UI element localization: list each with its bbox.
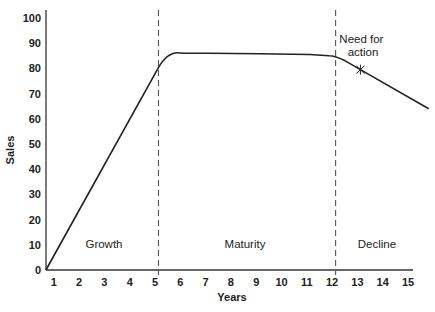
x-tick-label: 13 xyxy=(351,276,363,288)
x-tick-label: 4 xyxy=(127,276,134,288)
annotation-line-1: Need for xyxy=(339,33,383,45)
product-life-cycle-chart: 0102030405060708090100 12345678910111213… xyxy=(0,0,435,312)
x-tick-label: 2 xyxy=(76,276,82,288)
x-tick-label: 3 xyxy=(101,276,107,288)
x-tick-label: 9 xyxy=(253,276,259,288)
annotation-label: Need for action xyxy=(339,33,386,58)
phase-label-maturity: Maturity xyxy=(225,238,266,250)
phase-dividers xyxy=(159,10,336,275)
y-tick-label: 30 xyxy=(29,188,41,200)
x-tick-label: 6 xyxy=(177,276,183,288)
x-tick-label: 12 xyxy=(326,276,338,288)
x-tick-label: 8 xyxy=(228,276,234,288)
y-tick-label: 100 xyxy=(23,12,41,24)
y-tick-label: 40 xyxy=(29,163,41,175)
annotation-line-2: action xyxy=(348,46,379,58)
y-tick-label: 60 xyxy=(29,113,41,125)
chart-canvas: 0102030405060708090100 12345678910111213… xyxy=(0,0,435,312)
x-tick-label: 1 xyxy=(51,276,57,288)
x-tick-label: 15 xyxy=(402,276,414,288)
y-axis-title: Sales xyxy=(4,136,16,165)
y-tick-label: 50 xyxy=(29,138,41,150)
phase-label-growth: Growth xyxy=(85,238,122,250)
phase-label-decline: Decline xyxy=(358,238,396,250)
y-tick-label: 70 xyxy=(29,88,41,100)
x-tick-label: 10 xyxy=(275,276,287,288)
x-tick-labels: 123456789101112131415 xyxy=(51,276,414,288)
x-tick-label: 14 xyxy=(377,276,390,288)
need-for-action-marker xyxy=(356,65,364,75)
y-tick-label: 80 xyxy=(29,62,41,74)
y-tick-label: 20 xyxy=(29,214,41,226)
y-tick-label: 10 xyxy=(29,239,41,251)
x-tick-label: 11 xyxy=(301,276,313,288)
y-tick-label: 0 xyxy=(35,264,41,276)
y-tick-label: 90 xyxy=(29,37,41,49)
x-tick-label: 5 xyxy=(152,276,158,288)
x-tick-label: 7 xyxy=(203,276,209,288)
x-axis-title: Years xyxy=(217,291,246,303)
y-tick-labels: 0102030405060708090100 xyxy=(23,12,41,276)
